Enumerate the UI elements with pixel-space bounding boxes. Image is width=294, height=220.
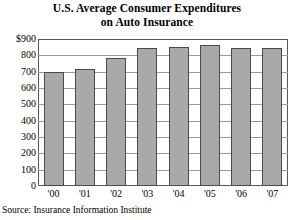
bars-layer: [38, 39, 288, 186]
y-axis: $9008007006005004003002001000: [0, 39, 36, 186]
x-axis-tick-label: '07: [257, 188, 287, 200]
bar: [169, 47, 189, 186]
chart-title-line-1: U.S. Average Consumer Expenditures: [0, 2, 294, 16]
bar: [200, 45, 220, 186]
x-axis-tick-label: '06: [226, 188, 256, 200]
y-axis-tick-label: 300: [0, 132, 36, 142]
x-axis-tick-label: '01: [70, 188, 100, 200]
y-axis-tick-label: 500: [0, 99, 36, 109]
x-axis-tick-label: '00: [39, 188, 69, 200]
y-axis-tick-label: 600: [0, 83, 36, 93]
y-axis-tick-label: 100: [0, 165, 36, 175]
x-axis-tick-label: '03: [132, 188, 162, 200]
x-axis: '00'01'02'03'04'05'06'07: [38, 188, 288, 202]
bar: [106, 58, 126, 186]
source-note: Source: Insurance Information Institute: [2, 204, 152, 216]
x-axis-tick-label: '02: [101, 188, 131, 200]
chart-title: U.S. Average Consumer Expenditures on Au…: [0, 2, 294, 29]
chart-title-line-2: on Auto Insurance: [0, 16, 294, 30]
y-axis-tick-label: 800: [0, 50, 36, 60]
y-axis-tick-label: $900: [0, 34, 36, 44]
y-axis-tick-label: 400: [0, 116, 36, 126]
bar-chart-figure: U.S. Average Consumer Expenditures on Au…: [0, 0, 294, 220]
bar: [137, 48, 157, 186]
y-axis-tick-label: 200: [0, 148, 36, 158]
y-axis-tick-label: 0: [0, 181, 36, 191]
bar: [44, 72, 64, 186]
bar: [262, 48, 282, 186]
y-axis-tick-label: 700: [0, 67, 36, 77]
bar: [75, 69, 95, 186]
plot-area: [38, 39, 288, 186]
x-axis-tick-label: '04: [164, 188, 194, 200]
x-axis-tick-label: '05: [195, 188, 225, 200]
bar: [231, 48, 251, 186]
